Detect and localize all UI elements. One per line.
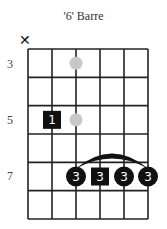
finger-number: 3	[120, 170, 128, 184]
fret-inlay-dot	[70, 57, 83, 70]
chord-diagram: 13333	[0, 0, 167, 229]
finger-number: 3	[144, 170, 152, 184]
finger-number: 1	[48, 113, 56, 127]
finger-number: 3	[72, 170, 80, 184]
finger-number: 3	[96, 170, 104, 184]
fret-inlay-dot	[70, 113, 83, 126]
barre-arc	[76, 154, 148, 169]
